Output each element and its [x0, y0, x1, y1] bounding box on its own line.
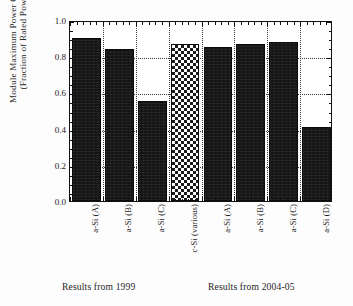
axis-tick: [320, 199, 321, 202]
axis-tick: [208, 22, 209, 25]
axis-tick: [221, 199, 222, 202]
y-axis-title-line-2: (Fraction of Rated Power): [18, 0, 28, 90]
axis-tick: [70, 67, 73, 68]
axis-tick: [83, 199, 84, 202]
axis-tick: [169, 197, 170, 201]
axis-tick: [116, 22, 117, 25]
axis-tick: [228, 22, 229, 25]
axis-tick: [70, 76, 73, 77]
axis-tick: [70, 85, 73, 86]
axis-tick: [267, 197, 268, 201]
y-tick-label: 0.8: [55, 52, 66, 62]
axis-tick: [329, 140, 332, 141]
x-tick-label: c-Si (various): [189, 204, 201, 272]
axis-tick: [70, 94, 74, 95]
axis-tick: [70, 103, 73, 104]
axis-tick: [182, 199, 183, 202]
gridline-vertical: [103, 22, 104, 201]
group-caption-1: Results from 1999: [62, 281, 135, 292]
axis-tick: [329, 49, 332, 50]
gridline-vertical: [300, 22, 301, 201]
axis-tick: [307, 199, 308, 202]
axis-tick: [175, 22, 176, 25]
y-tick-label: 0.2: [55, 161, 66, 171]
axis-tick: [329, 113, 332, 114]
axis-tick: [248, 22, 249, 25]
axis-tick: [70, 131, 74, 132]
gridline-vertical: [169, 22, 170, 201]
axis-tick: [70, 40, 73, 41]
axis-tick: [70, 167, 74, 168]
axis-tick: [329, 31, 332, 32]
axis-tick: [261, 22, 262, 25]
bar: [171, 44, 200, 201]
axis-tick: [261, 199, 262, 202]
gridline-vertical: [136, 22, 137, 201]
axis-tick: [280, 22, 281, 25]
axis-tick: [329, 67, 332, 68]
axis-tick: [221, 22, 222, 25]
axis-tick: [326, 199, 327, 202]
axis-tick: [307, 22, 308, 25]
axis-tick: [300, 22, 301, 26]
gridline-vertical: [234, 22, 235, 201]
plot-inner: [70, 22, 331, 201]
axis-tick: [70, 31, 73, 32]
x-tick-label: a-Si (A): [222, 204, 234, 272]
x-tick-label: a-Si (B): [123, 204, 135, 272]
x-axis-tick-labels: a-Si (A)a-Si (B)a-Si (C)c-Si (various)a-…: [69, 204, 332, 272]
axis-tick: [329, 76, 332, 77]
axis-tick: [248, 199, 249, 202]
axis-tick: [182, 22, 183, 25]
axis-tick: [123, 22, 124, 25]
bar: [236, 44, 265, 201]
axis-tick: [267, 22, 268, 26]
axis-tick: [329, 85, 332, 86]
axis-tick: [241, 199, 242, 202]
axis-tick: [70, 113, 73, 114]
y-axis-title: Module Maximum Power Output (Fraction of…: [1, 0, 35, 139]
axis-tick: [327, 22, 331, 23]
y-tick-label: 0.4: [55, 125, 66, 135]
gridline-vertical: [202, 22, 203, 201]
axis-tick: [142, 22, 143, 25]
y-tick-label: 0.0: [55, 197, 66, 207]
group-caption-2: Results from 2004-05: [208, 281, 295, 292]
axis-tick: [70, 176, 73, 177]
axis-tick: [83, 22, 84, 25]
axis-tick: [202, 22, 203, 26]
axis-tick: [90, 199, 91, 202]
axis-tick: [70, 197, 71, 201]
axis-tick: [70, 149, 73, 150]
axis-tick: [90, 22, 91, 25]
axis-tick: [162, 199, 163, 202]
axis-tick: [320, 22, 321, 25]
bar: [105, 49, 134, 201]
axis-tick: [77, 199, 78, 202]
axis-tick: [162, 22, 163, 25]
y-tick-label: 1.0: [55, 16, 66, 26]
axis-tick: [109, 22, 110, 25]
axis-tick: [155, 199, 156, 202]
x-tick-label: a-Si (C): [156, 204, 168, 272]
x-tick-label: a-Si (A): [90, 204, 102, 272]
axis-tick: [300, 197, 301, 201]
axis-tick: [234, 22, 235, 26]
bar: [302, 127, 331, 201]
axis-tick: [327, 94, 331, 95]
y-tick-label: 0.6: [55, 88, 66, 98]
axis-tick: [254, 199, 255, 202]
axis-tick: [215, 199, 216, 202]
bar: [269, 42, 298, 201]
axis-tick: [142, 199, 143, 202]
axis-tick: [129, 199, 130, 202]
axis-tick: [103, 22, 104, 26]
axis-tick: [287, 199, 288, 202]
axis-tick: [136, 197, 137, 201]
axis-tick: [274, 199, 275, 202]
axis-tick: [241, 22, 242, 25]
axis-tick: [70, 194, 73, 195]
x-tick-label: a-Si (C): [288, 204, 300, 272]
axis-tick: [215, 22, 216, 25]
axis-tick: [228, 199, 229, 202]
